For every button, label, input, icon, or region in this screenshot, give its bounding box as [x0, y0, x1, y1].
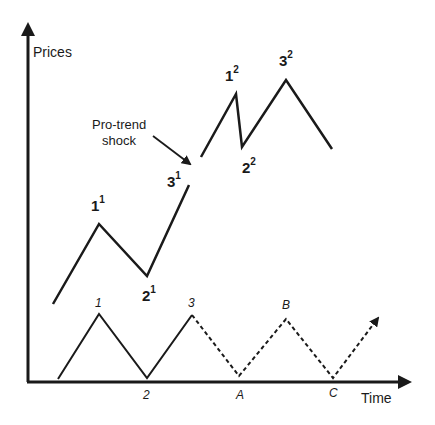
upper-path-segment-2 [201, 80, 332, 157]
shock-label-line1: Pro-trend [92, 117, 146, 133]
shock-arrow [153, 136, 190, 164]
label-wave-3-1: 31 [167, 172, 181, 190]
lower-path-dashed [192, 315, 378, 378]
label-lower-2: 2 [143, 388, 150, 402]
label-lower-3: 3 [188, 296, 195, 310]
y-axis-label: Prices [33, 44, 72, 60]
diagram-canvas [0, 0, 435, 425]
label-lower-C: C [329, 386, 338, 400]
x-axis-label: Time [361, 390, 392, 406]
shock-label-line2: shock [92, 133, 146, 149]
label-wave-2-2: 22 [242, 158, 256, 176]
label-wave-2-1: 21 [142, 286, 156, 304]
label-lower-1: 1 [95, 296, 102, 310]
pro-trend-shock-label: Pro-trend shock [92, 117, 146, 149]
label-wave-1-1: 11 [91, 196, 105, 214]
lower-path-solid [58, 314, 192, 379]
label-lower-A: A [236, 388, 244, 402]
upper-path-segment-1 [53, 185, 189, 304]
label-lower-B: B [282, 298, 290, 312]
label-wave-1-2: 12 [225, 66, 239, 84]
label-wave-3-2: 32 [279, 51, 293, 69]
